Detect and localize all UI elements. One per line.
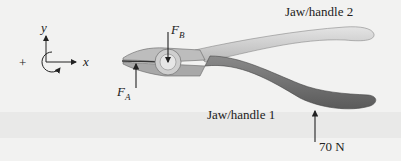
handle-1-label: Jaw/handle 1 [207,107,275,123]
applied-force-label: 70 N [319,139,345,155]
pliers-diagram [0,0,401,161]
y-axis-label: y [41,20,47,36]
x-axis-label: x [83,54,89,70]
force-fb-label: FB [171,22,184,38]
jaw-handle-1 [205,56,376,109]
handle-2-label: Jaw/handle 2 [285,4,353,20]
force-fa-label: FA [117,84,130,100]
coordinate-axes-icon [42,36,76,72]
positive-rotation-sign: + [19,55,26,71]
